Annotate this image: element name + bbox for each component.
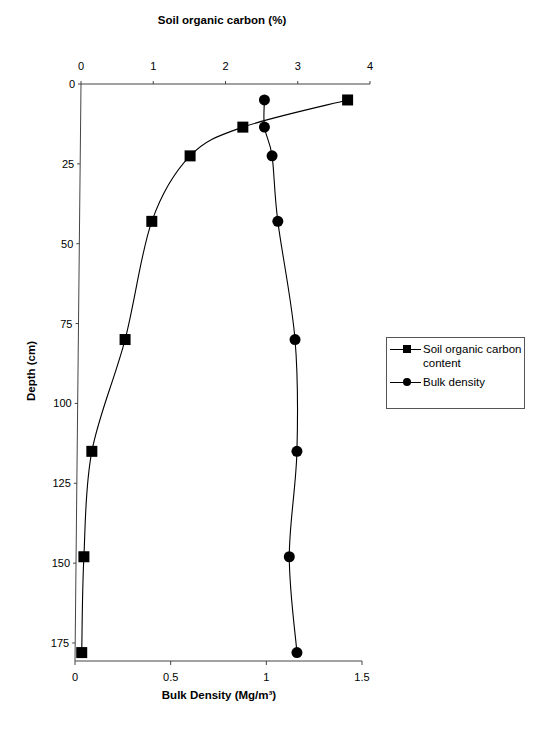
circle-marker-icon [259,94,270,105]
axes: 0123400.511.50255075100125150175 [51,60,373,683]
soc-line [82,100,348,653]
legend-label-bulk-density: Bulk density [423,375,523,389]
top-tick-label: 4 [367,60,373,72]
bottom-tick-label: 1 [263,671,269,683]
top-tick-label: 1 [150,60,156,72]
legend-item-bulk-density: Bulk density [387,375,523,389]
left-tick-label: 75 [60,318,72,330]
bottom-tick-label: 0 [72,671,78,683]
left-axis-title: Depth (cm) [25,341,37,401]
left-tick-label: 25 [62,158,74,170]
square-marker-icon [86,446,97,457]
legend-item-soc: Soil organic carbon content [387,342,523,370]
circle-marker-icon [284,551,295,562]
square-marker-icon [185,150,196,161]
circle-marker-icon [291,446,302,457]
square-marker-icon [78,551,89,562]
bottom-tick-label: 0.5 [163,671,178,683]
square-marker-icon [342,94,353,105]
circle-marker-icon [290,334,301,345]
left-tick-label: 175 [51,637,69,649]
series-layer [76,94,353,658]
left-axis-line [75,84,81,661]
square-marker-icon [237,122,248,133]
top-axis-title: Soil organic carbon (%) [158,14,287,26]
circle-marker-icon [291,647,302,658]
legend-label-soc: Soil organic carbon content [423,342,523,370]
top-tick-label: 2 [222,60,228,72]
square-marker-icon [76,647,87,658]
bottom-tick-label: 1.5 [354,671,369,683]
circle-marker-icon [387,375,423,389]
bulk-density-line [264,100,298,653]
left-tick-label: 100 [53,397,71,409]
left-tick-label: 50 [61,238,73,250]
square-marker-icon [120,334,131,345]
top-tick-label: 0 [78,60,84,72]
square-marker-icon [387,342,423,356]
left-tick-label: 125 [52,477,70,489]
circle-marker-icon [259,122,270,133]
left-tick-label: 0 [69,78,75,90]
legend: Soil organic carbon content Bulk density [386,337,525,409]
top-tick-label: 3 [295,60,301,72]
circle-marker-icon [272,216,283,227]
left-tick-label: 150 [52,557,70,569]
square-marker-icon [146,216,157,227]
bottom-axis-title: Bulk Density (Mg/m³) [162,689,277,701]
circle-marker-icon [267,150,278,161]
